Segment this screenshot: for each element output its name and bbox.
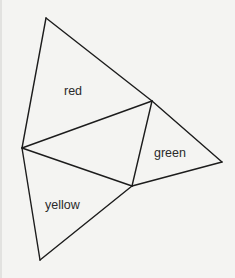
- region-label-red: red: [64, 84, 82, 98]
- triangle-diagram: red green yellow: [0, 0, 235, 278]
- region-label-yellow: yellow: [45, 198, 81, 212]
- edge-AC: [22, 18, 46, 148]
- edge-CB: [22, 101, 152, 148]
- edges: [22, 18, 222, 260]
- edge-AB: [46, 18, 152, 101]
- edge-DE: [132, 162, 222, 186]
- edge-BD: [132, 101, 152, 186]
- edge-CD: [22, 148, 132, 186]
- region-label-green: green: [154, 146, 186, 160]
- edge-CF: [22, 148, 40, 260]
